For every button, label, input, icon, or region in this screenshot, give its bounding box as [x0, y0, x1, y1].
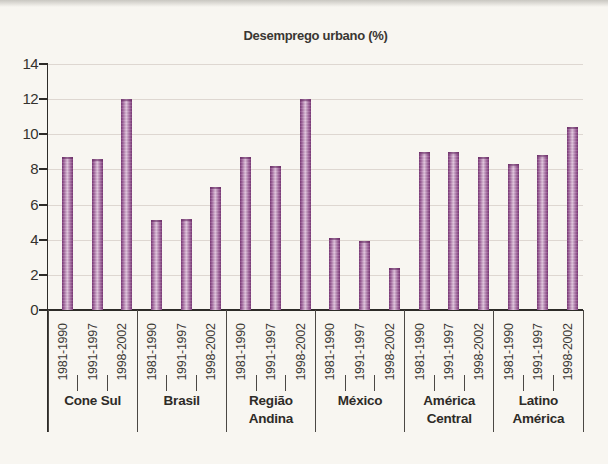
- period-label: 1998-2002: [196, 315, 226, 389]
- period-label: 1998-2002: [464, 315, 494, 389]
- y-tick-label: 0: [0, 301, 38, 319]
- period-divider-tick: [374, 375, 375, 391]
- bar: [359, 241, 370, 310]
- bar: [300, 99, 311, 310]
- group-label: México: [316, 392, 405, 410]
- period-label: 1991-1997: [78, 315, 108, 389]
- bar: [151, 220, 162, 310]
- period-label: 1998-2002: [107, 315, 137, 389]
- group-label: AméricaCentral: [405, 392, 494, 427]
- y-tick-mark: [39, 168, 48, 170]
- group-label-line: Brasil: [137, 392, 226, 410]
- period-label: 1998-2002: [286, 315, 316, 389]
- period-label: 1981-1990: [315, 315, 345, 389]
- y-tick-label: 4: [0, 231, 38, 249]
- y-tick-mark: [39, 274, 48, 276]
- bar: [567, 127, 578, 310]
- bar: [121, 99, 132, 310]
- bar: [240, 157, 251, 310]
- y-tick-mark: [39, 63, 48, 65]
- y-tick-mark: [39, 133, 48, 135]
- period-label: 1981-1990: [405, 315, 435, 389]
- y-tick-label: 8: [0, 160, 38, 178]
- group-separator: [493, 310, 494, 432]
- period-label: 1991-1997: [345, 315, 375, 389]
- group-label: RegiãoAndina: [226, 392, 315, 427]
- y-tick-mark: [39, 204, 48, 206]
- y-tick-mark: [39, 239, 48, 241]
- period-divider-tick: [553, 375, 554, 391]
- bar: [508, 164, 519, 310]
- bar: [448, 152, 459, 310]
- bar: [537, 155, 548, 310]
- period-divider-tick: [107, 375, 108, 391]
- period-label: 1981-1990: [48, 315, 78, 389]
- group-label-line: Latino: [494, 392, 583, 410]
- bar: [92, 159, 103, 310]
- group-label: Brasil: [137, 392, 226, 410]
- group-separator: [583, 310, 584, 432]
- period-label: 1981-1990: [137, 315, 167, 389]
- group-separator: [137, 310, 138, 432]
- period-divider-tick: [256, 375, 257, 391]
- period-divider-tick: [434, 375, 435, 391]
- y-tick-label: 6: [0, 196, 38, 214]
- group-label: Cone Sul: [48, 392, 137, 410]
- period-divider-tick: [345, 375, 346, 391]
- group-label-line: América: [405, 392, 494, 410]
- period-divider-tick: [77, 375, 78, 391]
- period-label: 1991-1997: [523, 315, 553, 389]
- bar: [181, 219, 192, 310]
- period-label: 1981-1990: [494, 315, 524, 389]
- bar: [478, 157, 489, 310]
- period-divider-tick: [523, 375, 524, 391]
- period-label: 1991-1997: [167, 315, 197, 389]
- group-separator: [315, 310, 316, 432]
- y-tick-label: 10: [0, 125, 38, 143]
- bar: [270, 166, 281, 310]
- group-separator: [404, 310, 405, 432]
- gridline: [48, 64, 583, 65]
- y-tick-mark: [39, 98, 48, 100]
- group-label-line: México: [316, 392, 405, 410]
- y-tick-label: 12: [0, 90, 38, 108]
- group-label-line: Central: [405, 410, 494, 428]
- period-divider-tick: [166, 375, 167, 391]
- period-divider-tick: [285, 375, 286, 391]
- period-label: 1998-2002: [375, 315, 405, 389]
- bar: [389, 268, 400, 310]
- group-label-line: Andina: [226, 410, 315, 428]
- y-tick-label: 14: [0, 55, 38, 73]
- bar: [419, 152, 430, 310]
- group-label-line: Cone Sul: [48, 392, 137, 410]
- period-label: 1991-1997: [434, 315, 464, 389]
- period-divider-tick: [464, 375, 465, 391]
- period-divider-tick: [196, 375, 197, 391]
- chart-figure: Desemprego urbano (%) 024681012141981-19…: [0, 0, 608, 464]
- group-label-line: Região: [226, 392, 315, 410]
- period-label: 1991-1997: [256, 315, 286, 389]
- group-label: LatinoAmérica: [494, 392, 583, 427]
- group-separator: [48, 310, 49, 432]
- chart-title: Desemprego urbano (%): [48, 28, 583, 43]
- bar: [62, 157, 73, 310]
- period-label: 1998-2002: [553, 315, 583, 389]
- y-tick-label: 2: [0, 266, 38, 284]
- bar: [329, 238, 340, 310]
- group-separator: [226, 310, 227, 432]
- scan-edge-shadow: [0, 0, 608, 7]
- bar: [210, 187, 221, 310]
- group-label-line: América: [494, 410, 583, 428]
- period-label: 1981-1990: [226, 315, 256, 389]
